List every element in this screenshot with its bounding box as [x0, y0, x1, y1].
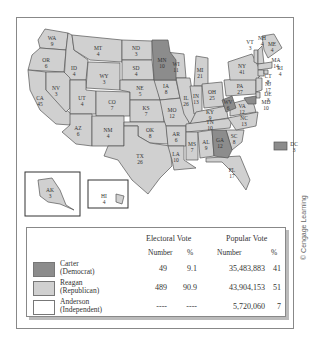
- state-label-TN: TN10: [206, 119, 213, 131]
- state-label-DC: DC3: [290, 141, 298, 153]
- state-DC-box: [274, 142, 287, 150]
- state-label-FL: FL17: [229, 167, 236, 179]
- copyright-credit: © Cengage Learning: [300, 195, 307, 260]
- state-label-CA: CA45: [36, 95, 44, 107]
- state-label-VA: VA12: [238, 103, 245, 115]
- state-label-PA: PA27: [237, 83, 244, 95]
- popular-vote-header: Popular Vote: [226, 234, 267, 243]
- state-label-TX: TX26: [136, 153, 143, 165]
- state-label-IL: IL26: [183, 95, 189, 107]
- carter-swatch: [33, 262, 55, 277]
- pop-percent-label: %: [271, 248, 277, 257]
- legend-row-reagan: Reagan(Republican) 489 90.9 43,904,153 5…: [33, 281, 283, 297]
- electoral-vote-header: Electoral Vote: [146, 234, 191, 243]
- state-label-VT: VT3: [246, 39, 254, 51]
- state-NJ: [256, 78, 262, 92]
- state-label-LA: LA10: [172, 151, 179, 163]
- pop-number-label: Number: [217, 248, 242, 257]
- reagan-swatch: [33, 281, 55, 296]
- legend-row-anderson: Anderson(Independent) ---- ---- 5,720,06…: [33, 300, 283, 316]
- state-label-IN: IN13: [193, 93, 199, 105]
- state-label-MI: MI21: [197, 67, 204, 79]
- state-FL: [206, 156, 250, 190]
- ev-number-label: Number: [148, 248, 173, 257]
- election-results-legend: Electoral Vote Popular Vote Number % Num…: [26, 227, 286, 317]
- state-NH: [258, 46, 264, 64]
- anderson-swatch: [33, 300, 55, 315]
- state-label-WI: WI11: [172, 61, 179, 73]
- state-VT: [254, 50, 258, 64]
- ev-percent-label: %: [187, 248, 193, 257]
- state-label-RI: RI4: [277, 65, 283, 77]
- legend-row-carter: Carter(Democrat) 49 9.1 35,483,883 41: [33, 262, 283, 278]
- state-CT: [258, 70, 264, 76]
- state-DE: [256, 92, 260, 98]
- state-label-MD: MD10: [262, 99, 271, 111]
